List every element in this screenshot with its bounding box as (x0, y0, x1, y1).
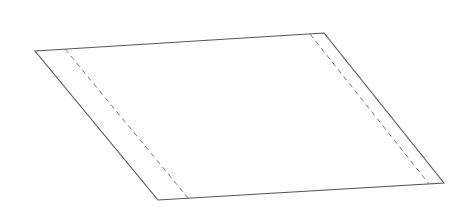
sheet-outline (35, 33, 444, 200)
parallelogram-diagram (0, 0, 465, 210)
